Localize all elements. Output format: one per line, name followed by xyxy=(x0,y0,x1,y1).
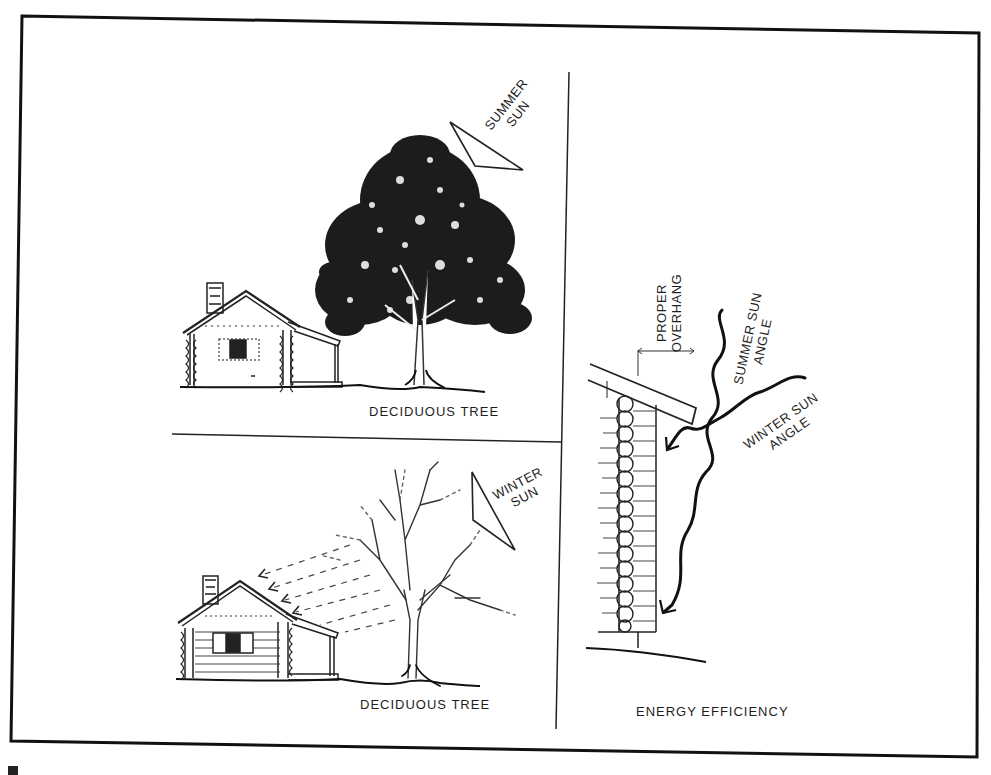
caption-fragment xyxy=(8,766,18,775)
vertical-divider xyxy=(556,72,569,729)
summer-tree-illustration xyxy=(315,135,532,388)
summer-tree-label: DECIDUOUS TREE xyxy=(369,404,499,419)
summer-ground-line xyxy=(180,385,485,392)
winter-sun-rays xyxy=(262,545,395,632)
overhang-line1: PROPER xyxy=(654,284,669,342)
horizontal-divider xyxy=(172,434,561,442)
winter-cabin-illustration xyxy=(178,576,338,680)
proper-overhang-label: PROPER OVERHANG xyxy=(654,268,684,358)
energy-efficiency-title: ENERGY EFFICIENCY xyxy=(636,704,789,719)
winter-tree-label: DECIDUOUS TREE xyxy=(360,697,490,712)
overhang-line2: OVERHANG xyxy=(669,274,684,352)
efficiency-ground-line xyxy=(586,648,706,662)
log-wall-section xyxy=(588,364,696,648)
